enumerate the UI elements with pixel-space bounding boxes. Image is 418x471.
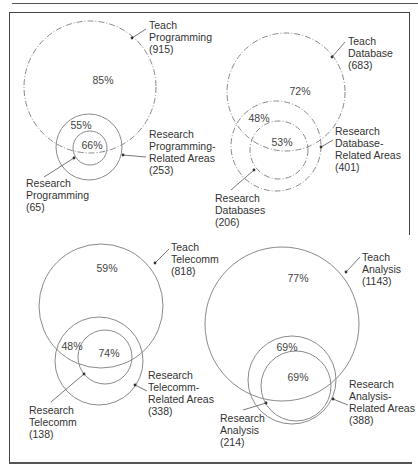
label-line: Research [349,378,415,390]
arrowhead-icon [332,398,335,401]
arrowhead-icon [134,384,137,387]
label-teach-analysis: Teach Analysis (1143) [362,251,401,287]
label-count: (253) [149,164,216,176]
label-line: Teach [362,251,401,263]
percent-research-programming: 66% [81,139,102,151]
circle-research-database [250,121,308,179]
label-line: Teach [149,19,212,31]
label-count: (401) [335,161,401,173]
arrowhead-icon [265,402,268,405]
label-line: Analysis- [349,390,415,402]
circle-research-analysis [261,351,331,421]
label-line: Related Areas [349,402,415,414]
circle-teach-database [227,33,345,151]
arrowhead-icon [345,271,348,274]
label-line: Programming [26,189,89,201]
label-line: Programming [149,31,212,43]
label-line: Research [149,128,216,140]
label-related-telecomm: Research Telecomm- Related Areas (338) [148,369,214,417]
label-line: Research [220,412,265,424]
arrowhead-icon [83,373,86,376]
label-line: Research [29,404,77,416]
leader-line-analysis [243,403,266,410]
venn-diagram-figure: 85% 55% 66% Teach Programming (915) Rese… [0,0,418,471]
leader-line-analysis [346,257,360,272]
label-line: Research [215,192,265,204]
percent-related-telecomm: 48% [61,340,82,352]
leader-line-database [321,140,333,147]
label-related-programming: Research Programming- Related Areas (253… [149,128,216,176]
label-count: (65) [26,201,89,213]
label-line: Databases [215,204,265,216]
percent-research-telecomm: 74% [98,347,119,359]
label-line: Research [148,369,214,381]
label-research-programming: Research Programming (65) [26,177,89,213]
label-line: Teach [348,35,393,47]
label-count: (138) [29,428,77,440]
leader-line-telecomm [135,385,147,391]
percent-research-analysis: 69% [287,371,308,383]
label-teach-database: Teach Database (683) [348,35,393,71]
label-count: (1143) [362,275,401,287]
percent-teach-programming: 85% [92,74,113,86]
arrowhead-icon [131,37,134,40]
leader-line-database [231,170,254,190]
label-research-database: Research Databases (206) [215,192,265,228]
arrowhead-icon [320,146,323,149]
label-count: (338) [148,405,214,417]
label-line: Telecomm- [148,381,214,393]
leader-line-programming [132,29,146,38]
leader-line-database [332,42,345,57]
label-line: Telecomm [171,253,219,265]
label-count: (915) [149,43,212,55]
label-line: Database- [335,137,401,149]
leader-line-analysis [333,399,348,405]
label-line: Research [26,177,89,189]
leader-line-telecomm [51,374,84,402]
label-teach-programming: Teach Programming (915) [149,19,212,55]
percent-teach-database: 72% [289,85,310,97]
label-count: (206) [215,216,265,228]
arrowhead-icon [253,169,256,172]
arrowhead-icon [122,154,125,157]
label-related-database: Research Database- Related Areas (401) [335,125,401,173]
arrowhead-icon [331,56,334,59]
label-line: Programming- [149,140,216,152]
label-teach-telecomm: Teach Telecomm (818) [171,241,219,277]
percent-related-analysis: 69% [276,341,297,353]
label-count: (818) [171,265,219,277]
label-line: Related Areas [148,393,214,405]
label-count: (388) [349,414,415,426]
label-line: Analysis [362,263,401,275]
percent-teach-telecomm: 59% [96,262,117,274]
arrowhead-icon [154,262,157,265]
label-line: Telecomm [29,416,77,428]
percent-related-programming: 55% [70,119,91,131]
leader-line-telecomm [155,249,169,263]
label-line: Database [348,47,393,59]
arrowhead-icon [73,157,76,160]
label-line: Research [335,125,401,137]
label-line: Teach [171,241,219,253]
label-research-telecomm: Research Telecomm (138) [29,404,77,440]
circle-teach-programming [24,21,156,153]
leader-line-programming [123,155,146,157]
label-line: Related Areas [149,152,216,164]
percent-teach-analysis: 77% [287,272,308,284]
label-count: (683) [348,59,393,71]
label-count: (214) [220,436,265,448]
label-line: Analysis [220,424,265,436]
label-line: Related Areas [335,149,401,161]
label-related-analysis: Research Analysis- Related Areas (388) [349,378,415,426]
percent-related-database: 48% [248,112,269,124]
percent-research-database: 53% [271,136,292,148]
label-research-analysis: Research Analysis (214) [220,412,265,448]
